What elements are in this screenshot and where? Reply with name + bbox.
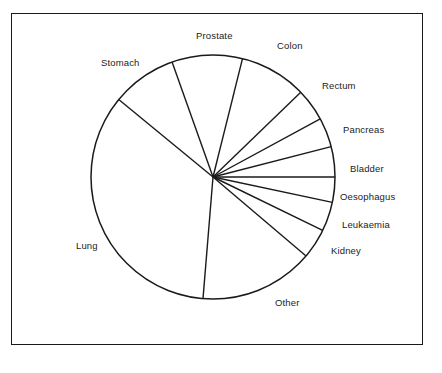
pie-label-prostate: Prostate [196,30,233,41]
pie-label-pancreas: Pancreas [343,124,384,135]
pie-divider-3 [213,119,320,177]
pie-divider-9 [203,177,213,299]
pie-label-stomach: Stomach [101,57,140,68]
pie-label-colon: Colon [277,40,303,51]
pie-divider-8 [213,177,306,256]
pie-divider-1 [213,59,243,177]
pie-divider-6 [213,177,332,202]
pie-label-rectum: Rectum [322,80,356,91]
pie-label-oesophagus: Oesophagus [340,191,395,202]
pie-divider-7 [213,177,323,230]
pie-chart-canvas [0,0,442,373]
pie-divider-2 [213,92,301,177]
pie-label-lung: Lung [76,240,98,251]
pie-label-leukaemia: Leukaemia [342,219,390,230]
pie-label-other: Other [275,297,300,308]
pie-divider-4 [213,147,331,177]
pie-chart-figure: Prostate Colon Rectum Pancreas Bladder O… [0,0,442,373]
pie-label-bladder: Bladder [350,163,384,174]
pie-label-kidney: Kidney [331,245,361,256]
